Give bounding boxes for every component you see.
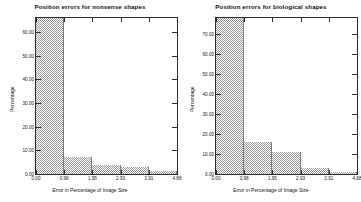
x-axis-tick — [357, 170, 358, 174]
y-axis-tick — [216, 134, 221, 135]
y-axis-tick — [172, 56, 177, 57]
x-axis-tick-label: 4.88 — [353, 176, 361, 181]
x-axis-tick-label: 1.95 — [88, 176, 97, 181]
x-axis-tick-label: 3.91 — [144, 176, 153, 181]
x-axis-tick — [149, 18, 150, 22]
x-axis-tick — [329, 18, 330, 22]
x-axis-tick — [64, 170, 65, 174]
histogram-bar — [301, 168, 329, 174]
x-axis-tick — [329, 170, 330, 174]
y-axis-tick — [172, 79, 177, 80]
chart-title: Position errors for biological shapes — [181, 3, 361, 10]
y-axis-tick-label: 40.00 — [23, 77, 35, 82]
chart-panel-biological: Position errors for biological shapes Pe… — [181, 0, 361, 202]
histogram-bar — [64, 157, 92, 174]
y-axis-tick — [352, 74, 357, 75]
x-axis-tick-label: 2.93 — [296, 176, 305, 181]
x-axis-tick-label: 1.95 — [268, 176, 277, 181]
y-axis-title: Percentage — [9, 86, 15, 112]
bars-group — [36, 18, 177, 174]
histogram-bar — [216, 18, 244, 174]
y-axis-tick — [352, 134, 357, 135]
y-axis-tick — [352, 154, 357, 155]
y-axis-tick-label: 20.00 — [203, 132, 215, 137]
y-axis-tick — [172, 103, 177, 104]
y-axis-tick — [216, 74, 221, 75]
y-axis-tick — [216, 34, 221, 35]
y-axis-tick-label: 50.00 — [23, 53, 35, 58]
y-axis-tick-label: 10.00 — [203, 152, 215, 157]
x-axis-tick-label: 0.00 — [212, 176, 221, 181]
y-axis-tick — [352, 114, 357, 115]
x-axis-tick-label: 0.98 — [240, 176, 249, 181]
x-axis-tick — [244, 170, 245, 174]
y-axis-tick — [36, 79, 41, 80]
y-axis-tick — [172, 32, 177, 33]
x-axis-tick — [272, 18, 273, 22]
figure-container: Position errors for nonsense shapes Perc… — [0, 0, 361, 202]
x-axis-tick-label: 2.93 — [116, 176, 125, 181]
histogram-bar — [272, 152, 300, 174]
x-axis-title: Error in Percentage of Image Size — [0, 187, 180, 193]
y-axis-tick-label: 20.00 — [23, 124, 35, 129]
x-axis-title: Error in Percentage of Image Size — [181, 187, 361, 193]
y-axis-tick — [352, 54, 357, 55]
y-axis-tick — [352, 174, 357, 175]
x-axis-tick — [121, 18, 122, 22]
y-axis-tick-label: 70.00 — [203, 32, 215, 37]
x-axis-tick — [216, 18, 217, 22]
x-axis-tick — [301, 18, 302, 22]
histogram-bar — [92, 165, 120, 174]
y-axis-tick — [216, 114, 221, 115]
x-axis-tick — [92, 18, 93, 22]
x-axis-tick — [92, 170, 93, 174]
y-axis-tick — [216, 54, 221, 55]
y-axis-tick — [36, 32, 41, 33]
y-axis-tick — [172, 127, 177, 128]
y-axis-tick — [352, 94, 357, 95]
x-axis-tick-label: 3.91 — [324, 176, 333, 181]
y-axis-tick — [36, 103, 41, 104]
y-axis-tick-label: 50.00 — [203, 72, 215, 77]
x-axis-tick — [301, 170, 302, 174]
plot-area: 0.0010.0020.0030.0040.0050.0060.000.000.… — [35, 17, 178, 175]
y-axis-tick-label: 60.00 — [203, 52, 215, 57]
x-axis-tick — [149, 170, 150, 174]
y-axis-tick-label: 60.00 — [23, 30, 35, 35]
histogram-bar — [244, 142, 272, 174]
y-axis-tick — [352, 34, 357, 35]
y-axis-tick — [36, 150, 41, 151]
y-axis-tick — [216, 154, 221, 155]
y-axis-tick — [216, 94, 221, 95]
x-axis-tick — [177, 18, 178, 22]
y-axis-tick — [172, 174, 177, 175]
x-axis-tick-label: 0.98 — [60, 176, 69, 181]
x-axis-tick — [64, 18, 65, 22]
chart-title: Position errors for nonsense shapes — [0, 3, 180, 10]
y-axis-tick — [36, 174, 41, 175]
bars-group — [216, 18, 357, 174]
x-axis-tick — [272, 170, 273, 174]
x-axis-tick — [36, 18, 37, 22]
plot-area: 0.0010.0020.0030.0040.0050.0060.0070.000… — [215, 17, 358, 175]
x-axis-tick — [357, 18, 358, 22]
x-axis-tick — [177, 170, 178, 174]
y-axis-tick — [172, 150, 177, 151]
y-axis-tick — [36, 56, 41, 57]
y-axis-tick-label: 30.00 — [203, 112, 215, 117]
y-axis-tick — [36, 127, 41, 128]
y-axis-tick-label: 10.00 — [23, 148, 35, 153]
y-axis-tick-label: 40.00 — [203, 92, 215, 97]
x-axis-tick — [121, 170, 122, 174]
x-axis-tick — [216, 170, 217, 174]
y-axis-tick-label: 30.00 — [23, 101, 35, 106]
histogram-bar — [121, 167, 149, 174]
x-axis-tick-label: 0.00 — [32, 176, 41, 181]
y-axis-tick — [216, 174, 221, 175]
y-axis-title: Percentage — [189, 86, 195, 112]
x-axis-tick — [36, 170, 37, 174]
chart-panel-nonsense: Position errors for nonsense shapes Perc… — [0, 0, 180, 202]
x-axis-tick — [244, 18, 245, 22]
